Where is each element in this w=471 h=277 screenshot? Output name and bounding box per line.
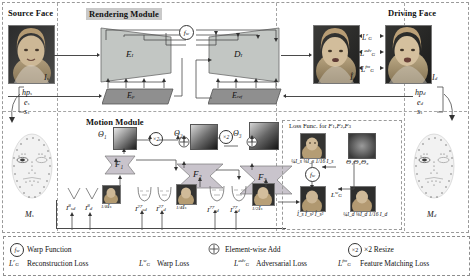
legend-warp-loss-icon: LwG [139,258,150,268]
driving-mesh-to-params-curve [442,92,458,122]
driving-mesh-subscript: d [434,213,437,218]
motion-face-thumb-3-icon [253,184,274,205]
source-hp-sub: s [30,91,32,96]
generated-image-label: Îd [350,73,355,82]
figure-canvas: Source Face Rendering Module Driving Fac… [0,0,471,277]
driving-face-mesh [410,124,458,210]
driving-s-sub: s [420,110,422,115]
source-image-label: Is [44,73,49,82]
loss-connectors-output [356,30,388,85]
legend-panel [3,236,470,276]
driving-e-label: ed [417,98,423,107]
divider-left [57,3,58,231]
driving-e-sub: d [421,101,424,106]
legend-feature-matching-loss-icon: LfmG [338,258,351,268]
driving-to-eref-arrow [283,94,286,98]
source-to-encoder-arrow [97,53,100,57]
flow-input-arrows [104,175,279,187]
lg-warp-sub: w [16,248,19,253]
motion-input-photo-2 [176,184,197,205]
encoder-ref-shape [208,88,282,105]
legend-feature-matching-loss-label: Feature Matching Loss [360,259,429,268]
driving-hp-label: hpd [415,88,426,97]
divider-horizontal [3,111,467,112]
lg-fm-sub: G [347,262,351,267]
motion-bus-left-riser [56,200,57,228]
legend-resize-label: ×2 Resize [364,245,394,254]
loss-box-wiring [296,155,386,195]
driving-hp-symbol: hp [415,88,423,97]
generated-image-subscript: d [353,76,356,81]
driving-to-eref-line [285,96,413,97]
legend-element-wise-add-label: Element-wise Add [225,245,281,254]
legend-element-wise-add-icon [208,243,220,255]
page-title-source-face: Source Face [8,8,53,18]
loss-function-title: Loss Func. for F1,F2,F3 [289,122,351,129]
mi1c-sub: s [109,204,111,209]
warp-function-icon-top: fw [179,25,194,40]
lg-adv-sub: G [245,262,249,267]
source-face-mesh [8,124,56,210]
source-image-subscript: s [47,76,49,81]
source-mesh-label: Ms [25,210,34,219]
encoder-pose-links [100,76,176,90]
legend-adversarial-loss-icon: LadvG [234,258,249,268]
motion-input-sketch-1a [66,186,82,202]
source-e-sub: s [28,101,30,106]
driving-face-image [385,25,432,84]
driving-image-label: Id [432,73,437,82]
source-to-encoder-line [54,55,98,56]
page-title-rendering-module: Rendering Module [86,8,162,20]
driving-hp-sub: d [423,91,426,96]
motion-input-photo-1 [102,185,121,204]
motion-bottom-bus [56,228,286,229]
legend-resize-icon: ×2 [348,243,362,257]
encoder-pose-shape [102,88,174,105]
legend-reconstruction-loss-icon: LrG [9,258,19,268]
encoder-pose-label: Ep [127,91,134,100]
legend-reconstruction-loss-label: Reconstruction Loss [27,259,88,268]
decoder-to-output-arrow [309,53,312,57]
encoder-ref-label: Eref [232,91,242,100]
motion-input-sketch-2a [136,185,153,203]
driving-mesh-label: Md [427,210,436,219]
warp-symbol-sub: w [186,31,189,36]
pose-to-encoder-link [166,56,186,98]
page-title-driving-face: Driving Face [388,8,436,18]
source-mesh-symbol: M [25,210,32,219]
source-s-sub: s [27,110,29,115]
driving-s-label: ss [417,107,422,116]
loss-box-external-link [276,196,302,208]
source-mesh-subscript: s [32,213,34,218]
legend-warp-loss-label: Warp Loss [157,259,189,268]
motion-input-label-1c: 1/8Is [101,203,111,209]
legend-adversarial-loss-label: Adversarial Loss [256,259,307,268]
encoder-pose-subscript: p [132,94,135,99]
driving-mesh-symbol: M [427,210,434,219]
lg-rec-sub: G [15,262,19,267]
motion-face-thumb-1-icon [103,186,120,203]
motion-input-sketch-1b [84,186,100,202]
legend-warp-function-label: Warp Function [27,245,72,254]
ref-to-decoder-link [192,56,216,100]
driving-image-subscript: d [435,76,438,81]
motion-face-thumb-2-icon [177,185,196,204]
encoder-ref-subscript: ref [237,94,242,99]
lg-warploss-sub: G [147,262,151,267]
loss-box-bottom-right-label: ¼I_d ⅛I_d 1/16 I_d [343,211,387,217]
decoder-ref-links [208,76,286,90]
loss-box-bottom-left-label: Î_s Î_s² Î_s³ [297,211,323,217]
source-mesh-to-params-curve [6,92,22,124]
params-to-ep-arrow [99,94,102,98]
decoder-to-output-line [281,55,310,56]
motion-input-sketch-2b [156,185,173,203]
legend-warp-function-icon: fw [10,243,24,257]
driving-face-portrait-icon [386,26,431,83]
